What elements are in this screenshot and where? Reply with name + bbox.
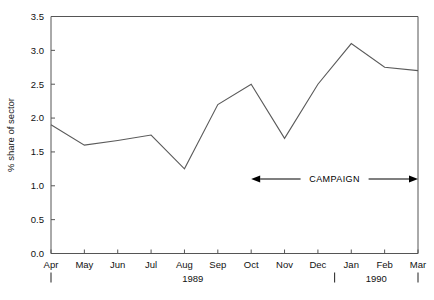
x-tick-label-mar: Mar — [410, 259, 426, 270]
x-tick-label-jun: Jun — [110, 259, 125, 270]
x-tick-label-feb: Feb — [376, 259, 392, 270]
x-tick-label-may: May — [75, 259, 93, 270]
x-tick-label-apr: Apr — [44, 259, 59, 270]
y-tick-label: 0.5 — [31, 214, 44, 225]
x-tick-label-aug: Aug — [176, 259, 193, 270]
y-axis-title: % share of sector — [5, 98, 16, 172]
y-tick-label: 3.5 — [31, 11, 44, 22]
y-tick-label: 2.5 — [31, 79, 44, 90]
y-tick-label: 2.0 — [31, 112, 44, 123]
chart-container: 0.00.51.01.52.02.53.03.5 AprMayJunJulAug… — [0, 0, 434, 300]
line-chart: 0.00.51.01.52.02.53.03.5 AprMayJunJulAug… — [0, 0, 434, 300]
x-tick-label-sep: Sep — [209, 259, 226, 270]
x-tick-label-nov: Nov — [276, 259, 293, 270]
y-tick-label: 3.0 — [31, 45, 44, 56]
year-label-1990: 1990 — [366, 273, 387, 284]
x-tick-label-oct: Oct — [244, 259, 259, 270]
x-tick-label-dec: Dec — [309, 259, 326, 270]
year-label-1989: 1989 — [182, 273, 203, 284]
x-tick-label-jul: Jul — [145, 259, 157, 270]
campaign-label: CAMPAIGN — [309, 174, 360, 184]
chart-background — [0, 0, 434, 300]
x-tick-label-jan: Jan — [344, 259, 359, 270]
y-tick-label: 1.0 — [31, 180, 44, 191]
y-tick-label: 0.0 — [31, 248, 44, 259]
y-tick-label: 1.5 — [31, 146, 44, 157]
